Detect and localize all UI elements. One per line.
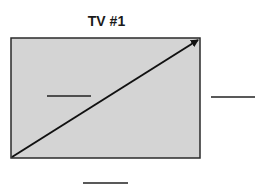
tv-diagram: [0, 0, 267, 191]
